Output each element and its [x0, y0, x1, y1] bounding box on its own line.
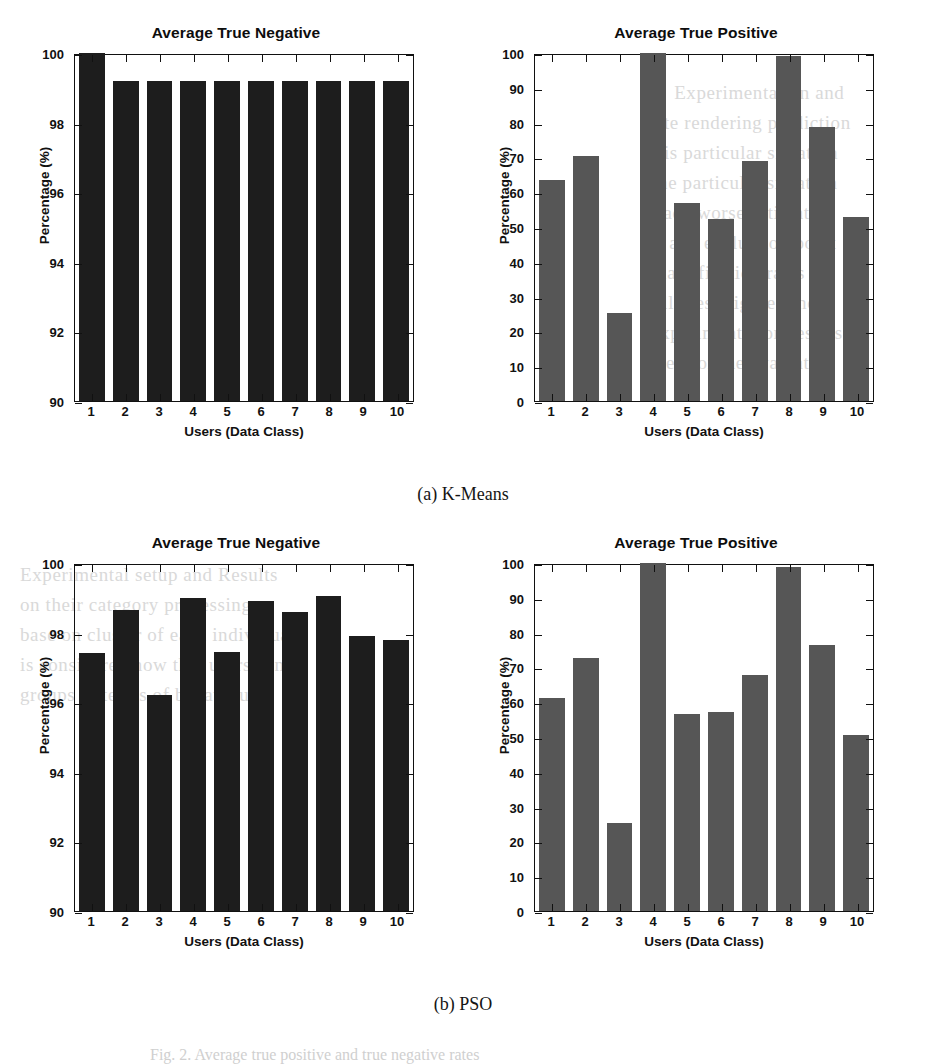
bar-slot	[379, 55, 413, 401]
bar-slot	[143, 565, 177, 911]
y-tick-mark	[535, 878, 542, 879]
x-tick-label: 5	[210, 404, 244, 419]
y-tick-label: 40	[510, 255, 524, 270]
y-tick-mark	[406, 704, 413, 705]
bar-slot	[75, 565, 109, 911]
y-tick-mark	[535, 55, 542, 56]
x-tick-mark	[858, 565, 859, 572]
chart-title: Average True Negative	[6, 534, 466, 552]
bar-2	[113, 610, 139, 911]
x-tick-mark	[296, 904, 297, 911]
y-tick-mark	[75, 55, 82, 56]
bar-9	[809, 645, 835, 911]
y-tick-mark	[535, 229, 542, 230]
bar-7	[742, 161, 768, 401]
x-tick-label: 8	[772, 914, 806, 929]
bar-1	[539, 698, 565, 911]
bar-slot	[704, 55, 738, 401]
y-tick-mark	[535, 194, 542, 195]
bar-10	[383, 81, 409, 401]
x-tick-mark	[858, 394, 859, 401]
x-tick-mark	[262, 904, 263, 911]
y-tick-label: 90	[50, 395, 64, 410]
x-tick-label: 9	[346, 404, 380, 419]
bar-5	[674, 714, 700, 911]
y-tick-label: 0	[517, 395, 524, 410]
y-tick-mark	[75, 704, 82, 705]
y-tick-mark	[866, 264, 873, 265]
y-tick-mark	[406, 125, 413, 126]
bar-8	[776, 567, 802, 911]
x-tick-label: 2	[108, 404, 142, 419]
x-tick-mark	[756, 904, 757, 911]
x-tick-mark	[756, 394, 757, 401]
x-tick-mark	[126, 565, 127, 572]
bar-slot	[176, 55, 210, 401]
x-tick-mark	[228, 394, 229, 401]
x-tick-mark	[330, 394, 331, 401]
x-tick-label: 7	[278, 914, 312, 929]
y-tick-mark	[535, 299, 542, 300]
y-tick-label: 100	[42, 47, 64, 62]
y-tick-label: 98	[50, 626, 64, 641]
x-tick-mark	[160, 565, 161, 572]
bar-6	[708, 712, 734, 911]
bar-5	[214, 81, 240, 401]
bar-1	[539, 180, 565, 401]
bar-8	[316, 596, 342, 911]
x-tick-label: 10	[380, 914, 414, 929]
bar-slot	[143, 55, 177, 401]
bar-8	[776, 56, 802, 401]
y-tick-mark	[535, 125, 542, 126]
x-tick-mark	[92, 565, 93, 572]
y-tick-label: 30	[510, 800, 524, 815]
y-tick-label: 94	[50, 255, 64, 270]
y-tick-mark	[406, 333, 413, 334]
chart-panel-a-left: Average True Negative Percentage (%) 909…	[6, 18, 466, 478]
y-tick-label: 70	[510, 661, 524, 676]
chart-panel-b-right: Average True Positive Percentage (%) 010…	[466, 528, 926, 988]
bar-series	[535, 565, 873, 911]
x-tick-label: 4	[176, 914, 210, 929]
x-tick-label: 1	[74, 404, 108, 419]
y-tick-label: 92	[50, 835, 64, 850]
bar-slot	[278, 565, 312, 911]
y-tick-mark	[535, 635, 542, 636]
x-axis-title: Users (Data Class)	[74, 934, 414, 949]
x-tick-mark	[92, 55, 93, 62]
y-tick-mark	[75, 125, 82, 126]
x-tick-label: 9	[346, 914, 380, 929]
x-tick-label: 4	[636, 914, 670, 929]
x-axis-tick-labels: 12345678910	[74, 914, 414, 929]
y-tick-mark	[866, 774, 873, 775]
x-tick-label: 1	[534, 404, 568, 419]
x-tick-label: 4	[636, 404, 670, 419]
x-tick-mark	[722, 55, 723, 62]
bar-slot	[738, 565, 772, 911]
x-tick-mark	[620, 394, 621, 401]
y-tick-label: 100	[42, 557, 64, 572]
chart-panel-b-left: Average True Negative Percentage (%) 909…	[6, 528, 466, 988]
y-tick-label: 90	[510, 591, 524, 606]
x-tick-mark	[586, 565, 587, 572]
y-tick-label: 60	[510, 696, 524, 711]
bar-slot	[805, 55, 839, 401]
y-tick-mark	[535, 669, 542, 670]
chart-panel-a-right: Average True Positive Percentage (%) 010…	[466, 18, 926, 478]
y-tick-mark	[75, 264, 82, 265]
x-tick-mark	[160, 55, 161, 62]
y-tick-label: 50	[510, 731, 524, 746]
subfigure-b: Average True Negative Percentage (%) 909…	[0, 528, 926, 988]
bar-slot	[670, 55, 704, 401]
x-tick-mark	[296, 394, 297, 401]
y-tick-mark	[535, 739, 542, 740]
y-tick-mark	[75, 565, 82, 566]
x-tick-mark	[688, 904, 689, 911]
y-tick-label: 98	[50, 116, 64, 131]
bar-9	[349, 636, 375, 911]
bar-slot	[569, 55, 603, 401]
y-tick-mark	[866, 55, 873, 56]
y-tick-label: 92	[50, 325, 64, 340]
y-tick-mark	[866, 635, 873, 636]
y-tick-mark	[866, 878, 873, 879]
